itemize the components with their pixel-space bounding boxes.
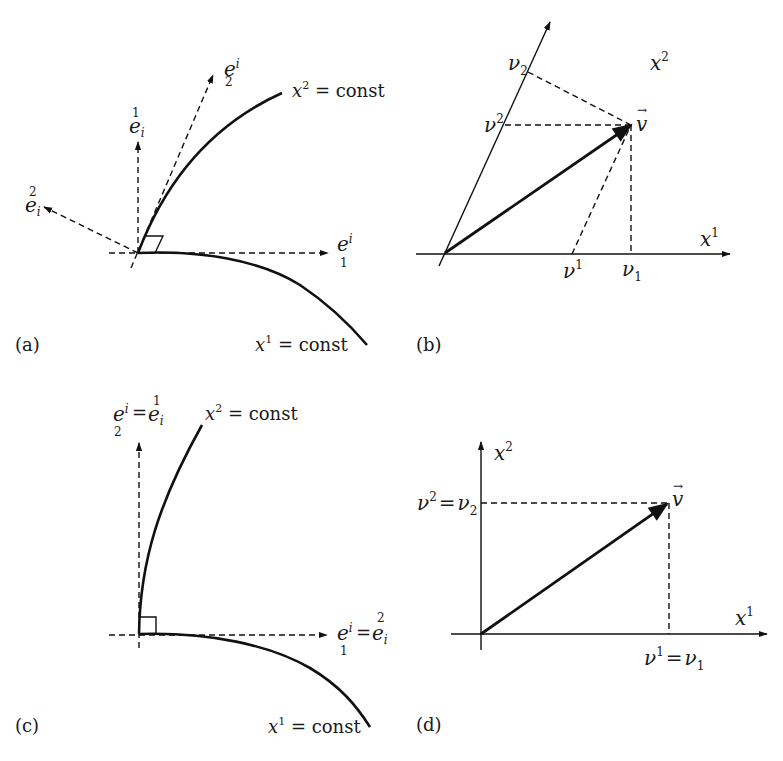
panel-b: x2 x1 ν2 ν2 v → ν1 ν1 (b)	[416, 22, 730, 355]
label-v-sup1: ν1	[563, 258, 583, 283]
label-x1-const: x1 = const	[268, 715, 361, 737]
figure-canvas: ei 2 1 ei 2 ei ei 1 x2 = const x1 = cons…	[0, 0, 783, 761]
axis-x2	[439, 22, 550, 266]
right-angle-marker	[145, 236, 163, 253]
label-e2-upper: ei	[372, 621, 388, 647]
label-x2-const: x2 = const	[292, 79, 385, 101]
basis-vector-e2-upper	[44, 207, 138, 253]
panel-d: x2 x1 v → ν2=ν2 ν1=ν1 (d)	[416, 440, 767, 735]
label-axis-x1: x1	[700, 226, 719, 251]
label-x1-const: x1 = const	[255, 333, 348, 355]
label-x2-const: x2 = const	[205, 402, 298, 424]
label-v-sub1: ν1	[622, 257, 642, 284]
label-e2-lower-index: 2	[114, 425, 122, 439]
vector-arrow-accent: →	[637, 103, 647, 117]
label-v1-equality: ν1=ν1	[644, 645, 704, 673]
curve-x2-const	[139, 425, 202, 634]
label-axis-x2: x2	[494, 440, 513, 465]
panel-label-c: (c)	[15, 715, 39, 736]
equals-sign: =	[356, 622, 371, 643]
label-e1-lower-index: 1	[340, 256, 348, 270]
right-angle-marker	[139, 617, 156, 634]
curve-x1-const	[138, 252, 367, 345]
panel-a: ei 2 1 ei 2 ei ei 1 x2 = const x1 = cons…	[15, 57, 385, 355]
curve-x2-const	[138, 93, 282, 253]
vector-arrow-accent: →	[673, 479, 683, 493]
label-axis-x2: x2	[650, 50, 669, 75]
panel-label-a: (a)	[15, 334, 40, 355]
projection-v2-covariant	[528, 72, 631, 125]
panel-c: ei 2 = 1 ei ei 1 = 2 ei x2 = const x1 = …	[15, 394, 388, 737]
label-e2-lower-index: 2	[225, 75, 233, 89]
label-v-sup2: ν2	[484, 112, 504, 137]
label-e2-upper: ei	[25, 193, 41, 219]
label-e1-lower-index: 1	[340, 644, 348, 658]
vector-v	[481, 504, 667, 634]
label-e1-upper: ei	[129, 114, 145, 140]
panel-label-b: (b)	[416, 334, 442, 355]
curve-x1-const	[139, 634, 370, 727]
panel-label-d: (d)	[416, 714, 442, 735]
label-v-sub2: ν2	[508, 51, 528, 78]
label-axis-x1: x1	[735, 605, 754, 630]
label-e1-lower: ei	[337, 232, 353, 256]
label-e2-lower: ei	[113, 402, 129, 426]
label-e1-lower: ei	[337, 621, 353, 645]
vector-v	[445, 125, 631, 253]
label-v2-equality: ν2=ν2	[417, 490, 477, 518]
label-e1-upper: ei	[148, 402, 164, 428]
equals-sign: =	[132, 402, 147, 423]
